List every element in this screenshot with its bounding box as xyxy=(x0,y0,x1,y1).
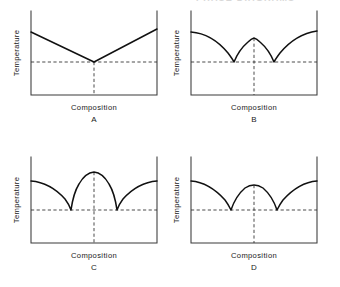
phase-diagram-figure: Temperature Composition A Temperature Co… xyxy=(0,0,340,287)
panel-a: Temperature Composition A xyxy=(12,11,157,124)
panel-a-frame xyxy=(31,11,157,95)
panel-d-xlabel: Composition xyxy=(231,251,277,260)
panel-b-xlabel: Composition xyxy=(231,103,277,112)
panel-c-letter: C xyxy=(91,263,97,272)
panel-d-ylabel: Temperature xyxy=(172,177,181,223)
panel-b-letter: B xyxy=(251,115,257,124)
panel-c: Temperature Composition C xyxy=(12,157,157,272)
panel-b-ylabel: Temperature xyxy=(172,30,181,76)
panel-a-ylabel: Temperature xyxy=(12,30,21,76)
panel-d-letter: D xyxy=(251,263,257,272)
panel-a-liquidus-curve xyxy=(31,29,157,62)
panel-b-frame xyxy=(191,11,317,95)
panel-c-xlabel: Composition xyxy=(71,251,117,260)
panel-c-ylabel: Temperature xyxy=(12,177,21,223)
panel-d-liquidus-curve xyxy=(191,181,317,210)
panel-a-letter: A xyxy=(91,115,97,124)
panel-d: Temperature Composition D xyxy=(172,157,317,272)
panel-b: Temperature Composition B xyxy=(172,11,317,124)
panel-a-xlabel: Composition xyxy=(71,103,117,112)
